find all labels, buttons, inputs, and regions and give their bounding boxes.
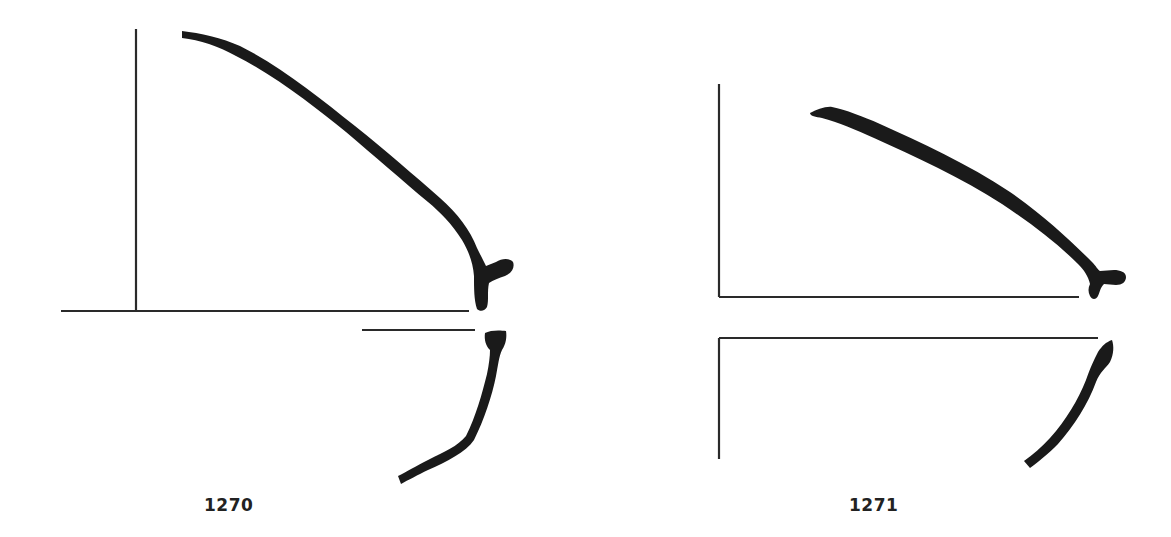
- figure-1271-label: 1271: [849, 495, 898, 515]
- figure-1271-lower-profile: [1024, 340, 1113, 468]
- figure-1270-upper-profile: [182, 31, 514, 311]
- diagram-canvas: [0, 0, 1171, 537]
- figure-1270-lower-profile: [398, 330, 506, 484]
- figure-1270-drawing: [61, 29, 514, 484]
- figure-1270-label: 1270: [204, 495, 253, 515]
- figure-1271-upper-profile: [810, 107, 1126, 299]
- figure-1271-drawing: [719, 84, 1126, 468]
